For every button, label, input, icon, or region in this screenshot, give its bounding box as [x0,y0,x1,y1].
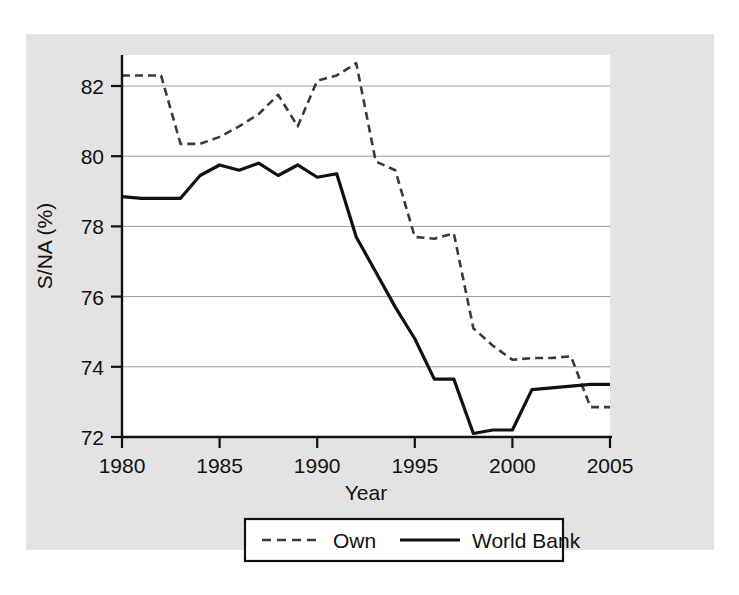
figure: 727476788082 198019851990199520002005 S/… [0,0,739,595]
y-tick-label-80: 80 [81,145,104,168]
x-tick-label-1985: 1985 [196,454,243,477]
x-tick-label-1980: 1980 [99,454,146,477]
y-axis-ticks: 727476788082 [81,75,122,449]
legend: Own World Bank [245,519,581,561]
y-axis-title: S/NA (%) [33,203,56,289]
y-tick-label-78: 78 [81,215,104,238]
legend-label-own: Own [333,529,376,552]
x-tick-label-2000: 2000 [489,454,536,477]
x-axis-title: Year [345,481,387,504]
y-tick-label-72: 72 [81,426,104,449]
legend-label-world-bank: World Bank [472,529,581,552]
y-tick-label-74: 74 [81,356,105,379]
y-tick-label-76: 76 [81,286,104,309]
line-chart: 727476788082 198019851990199520002005 S/… [0,0,739,595]
x-axis-ticks: 198019851990199520002005 [99,437,634,477]
x-tick-label-1990: 1990 [294,454,341,477]
x-tick-label-2005: 2005 [587,454,634,477]
y-tick-label-82: 82 [81,75,104,98]
x-tick-label-1995: 1995 [391,454,438,477]
